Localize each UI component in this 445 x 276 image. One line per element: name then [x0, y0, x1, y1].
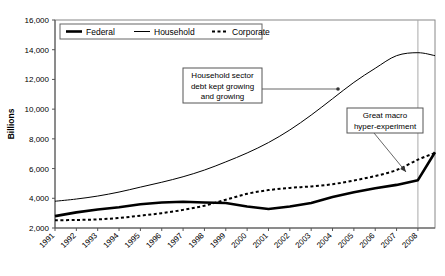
debt-by-sector-line-chart: 2,0004,0006,0008,00010,00012,00014,00016… — [0, 0, 445, 276]
federal-annotation-text-line: Great macro — [363, 111, 408, 120]
x-tick-label: 1995 — [123, 231, 142, 250]
x-tick-label: 2004 — [315, 231, 334, 250]
household-annotation-text-line: Household sector — [191, 71, 254, 80]
x-tick-label: 2002 — [272, 231, 291, 250]
legend: FederalHouseholdCorporate — [60, 24, 270, 39]
x-tick-label: 2006 — [358, 231, 377, 250]
chart-container: 2,0004,0006,0008,00010,00012,00014,00016… — [0, 0, 445, 276]
legend-label-corporate: Corporate — [232, 27, 270, 37]
household-annotation-text-line: and growing — [201, 92, 245, 101]
x-tick-label: 1996 — [144, 231, 163, 250]
household-annotation-leader-dot — [336, 87, 340, 91]
x-tick-label: 1997 — [166, 231, 185, 250]
x-tick-label: 1991 — [37, 231, 56, 250]
x-tick-label: 2008 — [400, 231, 419, 250]
household-annotation-text-line: debt kept growing — [191, 82, 254, 91]
y-tick-label: 10,000 — [25, 105, 50, 114]
x-tick-label: 2001 — [251, 231, 270, 250]
x-tick-label: 2007 — [379, 231, 398, 250]
legend-label-household: Household — [154, 27, 195, 37]
y-tick-label: 8,000 — [29, 135, 50, 144]
y-axis-title: Billions — [6, 108, 16, 139]
y-tick-label: 6,000 — [29, 165, 50, 174]
y-tick-label: 14,000 — [25, 46, 50, 55]
legend-label-federal: Federal — [86, 27, 115, 37]
federal-annotation-text-line: hyper-experiment — [354, 122, 417, 131]
y-tick-label: 16,000 — [25, 16, 50, 25]
y-tick-label: 4,000 — [29, 194, 50, 203]
y-axis-ticks: 2,0004,0006,0008,00010,00012,00014,00016… — [25, 16, 55, 233]
x-tick-label: 2003 — [294, 231, 313, 250]
y-tick-label: 2,000 — [29, 224, 50, 233]
x-tick-label: 2000 — [230, 231, 249, 250]
x-tick-label: 1994 — [102, 231, 121, 250]
x-tick-label: 1992 — [59, 231, 78, 250]
x-axis-ticks: 1991199219931994199519961997199819992000… — [37, 228, 419, 250]
x-tick-label: 1998 — [187, 231, 206, 250]
y-tick-label: 12,000 — [25, 75, 50, 84]
x-tick-label: 1993 — [80, 231, 99, 250]
x-tick-label: 1999 — [208, 231, 227, 250]
x-tick-label: 2005 — [336, 231, 355, 250]
